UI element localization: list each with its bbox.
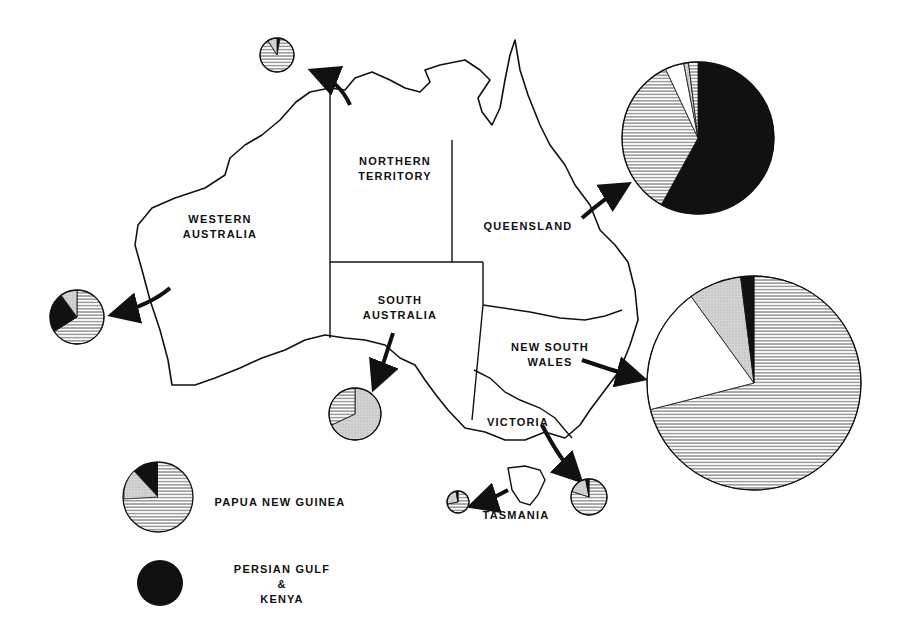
label-western-australia: WESTERN AUSTRALIA	[170, 212, 270, 242]
legend-pie-gulf	[137, 560, 183, 606]
legend-label-gulf: PERSIAN GULF & KENYA	[222, 562, 342, 607]
pie-queensland	[622, 62, 774, 214]
label-tasmania: TASMANIA	[476, 508, 556, 523]
legend-pie-png	[123, 462, 193, 532]
label-northern-territory: NORTHERN TERRITORY	[340, 154, 450, 184]
pie-new-south-wales	[647, 276, 861, 490]
pie-south-australia	[329, 388, 381, 440]
map-canvas	[0, 0, 902, 636]
legend-label-png: PAPUA NEW GUINEA	[205, 495, 355, 510]
pie-western-australia	[50, 290, 104, 344]
pie-victoria	[571, 479, 607, 515]
pie-northern-territory	[260, 38, 294, 72]
label-south-australia: SOUTH AUSTRALIA	[355, 293, 445, 323]
label-queensland: QUEENSLAND	[478, 219, 578, 234]
label-new-south-wales: NEW SOUTH WALES	[500, 340, 600, 370]
label-victoria: VICTORIA	[478, 415, 558, 430]
pie-tasmania	[447, 491, 469, 513]
arrow-tas	[474, 490, 508, 505]
tasmania-outline	[508, 466, 545, 505]
